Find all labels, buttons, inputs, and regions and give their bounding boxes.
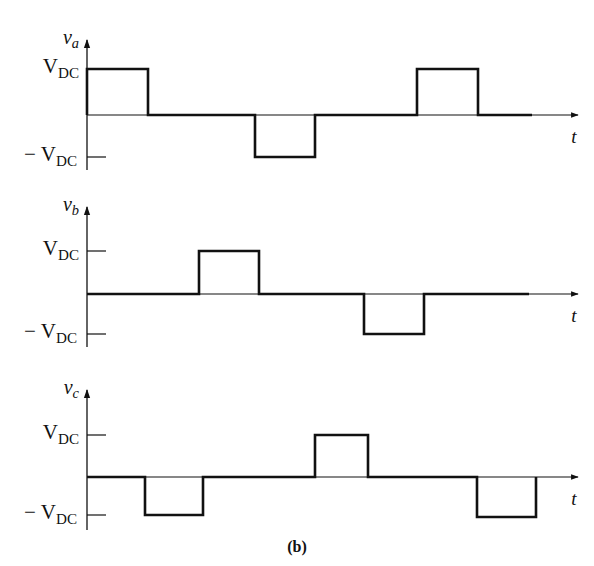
time-label: t	[571, 126, 577, 147]
waveform-vc	[87, 435, 536, 517]
time-label: t	[571, 488, 577, 509]
waveform-va	[87, 69, 532, 157]
label-neg-vdc: − VDC	[24, 319, 77, 346]
ylabel-va: va	[63, 26, 79, 51]
label-neg-vdc: − VDC	[24, 142, 77, 169]
time-label: t	[571, 305, 577, 326]
waveform-vb	[87, 251, 529, 334]
label-vdc: VDC	[43, 236, 79, 263]
panels-group: vaVDC− VDCtvbVDC− VDCtvcVDC− VDCt	[24, 26, 578, 530]
label-vdc: VDC	[43, 420, 79, 447]
panel-va: vaVDC− VDCt	[24, 26, 578, 170]
waveform-figure: vaVDC− VDCtvbVDC− VDCtvcVDC− VDCt (b)	[0, 0, 594, 566]
figure-caption: (b)	[287, 538, 307, 556]
panel-vb: vbVDC− VDCt	[24, 193, 578, 347]
panel-vc: vcVDC− VDCt	[24, 376, 578, 530]
ylabel-vb: vb	[63, 193, 79, 218]
ylabel-vc: vc	[64, 376, 80, 401]
label-vdc: VDC	[43, 54, 79, 81]
label-neg-vdc: − VDC	[24, 500, 77, 527]
